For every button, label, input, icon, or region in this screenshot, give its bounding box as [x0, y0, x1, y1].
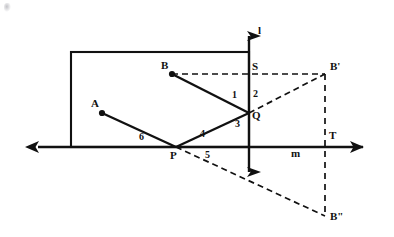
- segment-Q-B: [172, 74, 249, 113]
- label-line-l: l: [258, 25, 261, 36]
- label-point-B-double-prime: B": [330, 211, 343, 222]
- label-point-T: T: [329, 130, 336, 141]
- angle-label-4: 4: [200, 129, 205, 139]
- diagram-canvas: [0, 0, 394, 237]
- angle-label-6: 6: [139, 132, 144, 142]
- label-point-S: S: [252, 61, 258, 72]
- point-dot-A: [99, 110, 105, 116]
- angle-label-2: 2: [253, 89, 258, 99]
- label-point-B: B: [161, 60, 168, 71]
- point-dot-B: [169, 71, 175, 77]
- label-point-Q: Q: [252, 110, 261, 121]
- angle-label-5: 5: [205, 150, 210, 160]
- label-line-m: m: [291, 148, 300, 159]
- label-point-P: P: [170, 150, 177, 161]
- angle-label-3: 3: [235, 119, 240, 129]
- label-point-A: A: [91, 98, 99, 109]
- geometry-diagram: l m A B P Q S T B' B" 1 2 3 4 5 6: [0, 0, 394, 237]
- label-point-B-prime: B': [330, 61, 340, 72]
- dashed-P-to-Bdoubleprime: [176, 147, 325, 216]
- angle-label-1: 1: [232, 90, 237, 100]
- dashed-Q-to-Bprime: [249, 74, 325, 113]
